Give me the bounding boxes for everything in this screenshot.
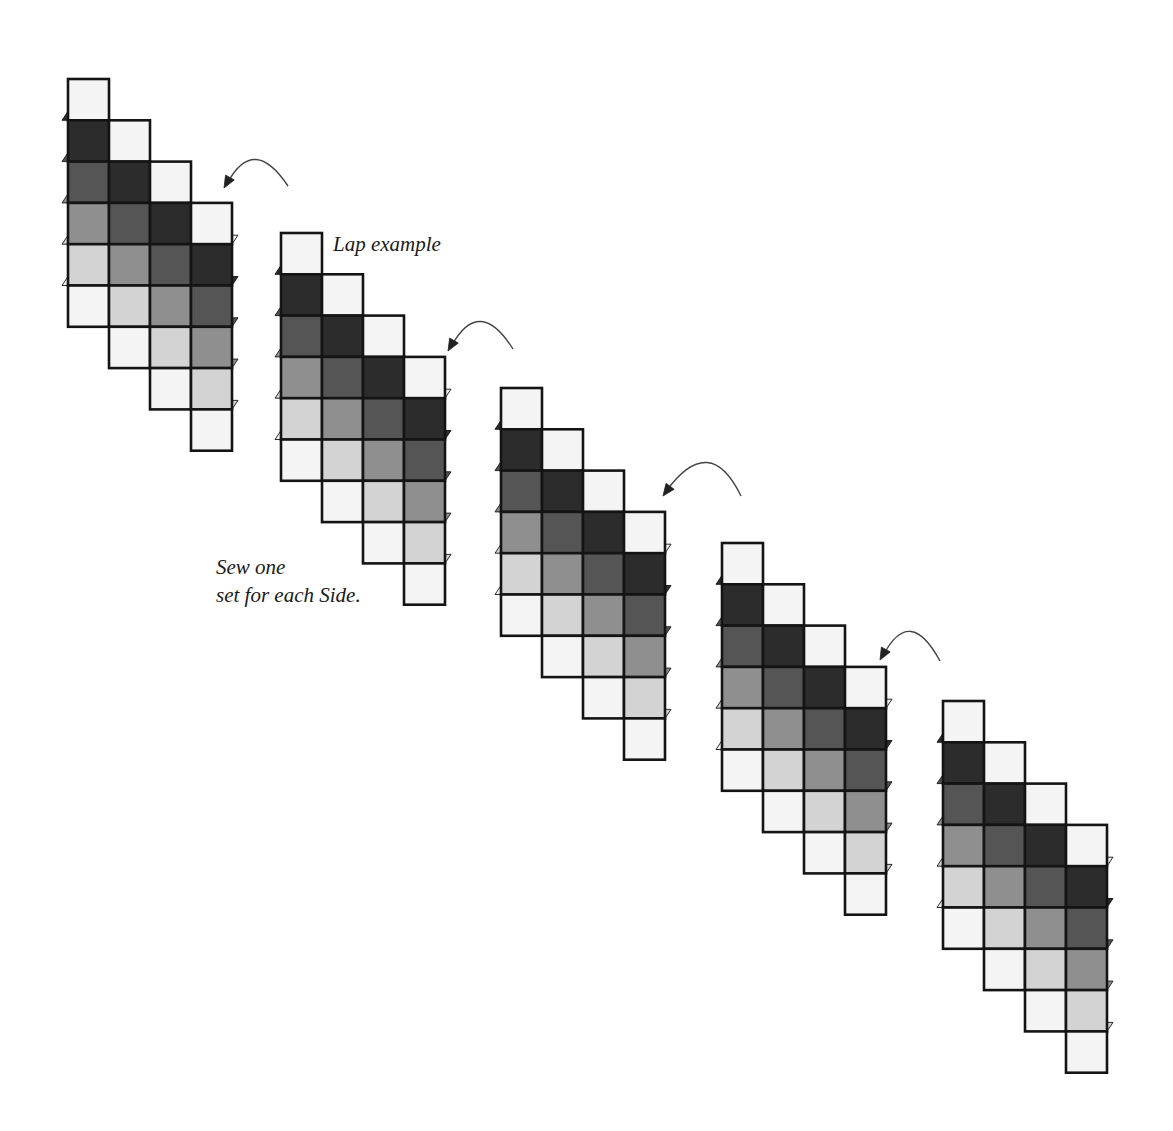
strip-column-2 [984,742,1025,990]
fabric-square-medium [150,286,191,327]
fabric-square-darkest [845,708,886,749]
fabric-square-white [501,388,542,429]
fabric-square-dark [1066,908,1107,949]
quilt-strip-diagram [0,0,1173,1131]
fabric-square-white [763,584,804,625]
fabric-square-light [624,677,665,718]
strip-column-4 [1066,825,1107,1073]
strip-column-4 [191,203,232,451]
fabric-square-darkest [763,626,804,667]
fabric-square-medium [542,553,583,594]
fabric-square-white [1025,990,1066,1031]
fabric-square-white [722,543,763,584]
fabric-square-light [722,708,763,749]
strip-set-block-2 [275,233,451,605]
strip-column-3 [1025,784,1066,1032]
fabric-square-darkest [583,512,624,553]
strip-column-1 [722,543,763,791]
fabric-square-darkest [68,120,109,161]
fabric-square-darkest [404,398,445,439]
strip-column-4 [404,357,445,605]
fabric-square-dark [943,784,984,825]
fabric-square-darkest [501,429,542,470]
fabric-square-white [943,908,984,949]
fabric-square-medium [68,203,109,244]
fabric-square-white [583,677,624,718]
fabric-square-white [845,873,886,914]
fabric-square-dark [501,471,542,512]
fabric-square-light [501,553,542,594]
fabric-square-medium [322,398,363,439]
fabric-square-white [322,274,363,315]
fabric-square-dark [109,203,150,244]
fabric-square-light [1066,990,1107,1031]
fabric-square-medium [845,791,886,832]
rotate-arrow-icon [880,631,940,661]
fabric-square-darkest [150,203,191,244]
fabric-square-darkest [363,357,404,398]
fabric-square-darkest [804,667,845,708]
fabric-square-medium [281,357,322,398]
fabric-square-medium [109,244,150,285]
fabric-square-light [363,481,404,522]
fabric-square-dark [68,162,109,203]
strip-set-block-1 [62,79,238,451]
fabric-square-dark [845,750,886,791]
fabric-square-light [150,327,191,368]
fabric-square-light [943,866,984,907]
fabric-square-light [583,636,624,677]
strip-set-block-3 [495,388,671,760]
fabric-square-white [281,440,322,481]
fabric-square-white [1025,784,1066,825]
fabric-square-white [150,368,191,409]
fabric-square-medium [501,512,542,553]
fabric-square-white [722,750,763,791]
fabric-square-medium [984,866,1025,907]
rotate-arrow-icon [224,159,288,188]
fabric-square-darkest [109,162,150,203]
fabric-square-darkest [1025,825,1066,866]
fabric-square-light [322,440,363,481]
sew-instruction-line-1: Sew one [216,553,361,581]
fabric-square-darkest [1066,866,1107,907]
fabric-square-white [150,162,191,203]
fabric-square-dark [1025,866,1066,907]
fabric-square-white [984,742,1025,783]
fabric-square-white [804,832,845,873]
fabric-square-white [845,667,886,708]
fabric-square-white [68,286,109,327]
strip-column-2 [542,429,583,677]
strip-column-2 [322,274,363,522]
fabric-square-white [624,718,665,759]
fabric-square-medium [624,636,665,677]
fabric-square-darkest [281,274,322,315]
fabric-square-white [191,203,232,244]
fabric-square-medium [191,327,232,368]
fabric-square-dark [722,626,763,667]
fabric-square-light [68,244,109,285]
fabric-square-white [191,409,232,450]
fabric-square-medium [943,825,984,866]
fabric-square-dark [281,316,322,357]
strip-column-1 [68,79,109,327]
fabric-square-dark [363,398,404,439]
fabric-square-darkest [542,471,583,512]
fabric-square-darkest [624,553,665,594]
fabric-square-dark [404,440,445,481]
fabric-square-darkest [943,742,984,783]
strip-column-3 [804,626,845,874]
fabric-square-white [363,522,404,563]
fabric-square-light [1025,949,1066,990]
fabric-square-white [404,357,445,398]
fabric-square-medium [763,708,804,749]
fabric-square-light [191,368,232,409]
strip-column-1 [943,701,984,949]
fabric-square-white [943,701,984,742]
fabric-square-dark [191,286,232,327]
fabric-square-white [624,512,665,553]
fabric-square-medium [1066,949,1107,990]
fabric-square-white [1066,825,1107,866]
fabric-square-medium [1025,908,1066,949]
fabric-square-white [984,949,1025,990]
fabric-square-dark [322,357,363,398]
